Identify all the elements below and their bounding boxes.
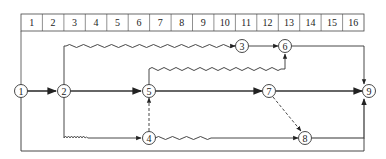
nodes: 1 2 3 4 5 6 7 8: [15, 40, 376, 145]
node-5-label: 5: [147, 86, 152, 97]
node-6[interactable]: 6: [279, 40, 292, 53]
node-1-label: 1: [19, 86, 24, 97]
node-2-label: 2: [62, 86, 67, 97]
timescale-unit-4: 4: [94, 17, 99, 28]
node-7-label: 7: [267, 86, 272, 97]
edges: [21, 45, 364, 152]
timescale-unit-5: 5: [115, 17, 120, 28]
node-5[interactable]: 5: [143, 85, 156, 98]
timescale-unit-10: 10: [220, 17, 230, 28]
node-3[interactable]: 3: [236, 40, 249, 53]
timescale-unit-9: 9: [201, 17, 206, 28]
node-7[interactable]: 7: [263, 85, 276, 98]
timescale-unit-15: 15: [327, 17, 337, 28]
edge-8-9: [312, 99, 364, 138]
edge-5-6-wavy: [149, 68, 281, 71]
node-3-label: 3: [240, 41, 245, 52]
edge-2-3-wavy: [66, 45, 241, 48]
timescale-unit-14: 14: [305, 17, 315, 28]
edge-2-3-vertical: [64, 46, 66, 85]
node-2[interactable]: 2: [58, 85, 71, 98]
timescale-unit-11: 11: [241, 17, 251, 28]
timescale-header: 1 2 3 4 5 6 7 8 9 10 11 12 13 14 15 16: [21, 14, 364, 31]
timescale-unit-2: 2: [51, 17, 56, 28]
timescale-unit-1: 1: [29, 17, 34, 28]
node-9[interactable]: 9: [363, 85, 376, 98]
timescale-unit-8: 8: [179, 17, 184, 28]
edge-4-8-wavy: [155, 137, 211, 140]
edge-7-8: [273, 97, 301, 131]
timescale-unit-6: 6: [136, 17, 141, 28]
timescale-unit-13: 13: [284, 17, 294, 28]
node-6-label: 6: [283, 41, 288, 52]
timescale-unit-7: 7: [158, 17, 163, 28]
edge-2-4-zigzag: [64, 136, 88, 138]
edge-1-9: [21, 97, 364, 151]
node-8-label: 8: [303, 133, 308, 144]
time-scaled-network-diagram: 1 2 3 4 5 6 7 8 9 10 11 12 13 14 15 16: [0, 0, 386, 159]
node-8[interactable]: 8: [299, 132, 312, 145]
node-1[interactable]: 1: [15, 85, 28, 98]
timescale-unit-3: 3: [72, 17, 77, 28]
edge-5-6-up: [281, 54, 285, 69]
node-4-label: 4: [147, 133, 152, 144]
edge-6-9: [292, 46, 364, 84]
timescale-unit-16: 16: [348, 17, 358, 28]
node-4[interactable]: 4: [143, 132, 156, 145]
timescale-unit-12: 12: [263, 17, 273, 28]
node-9-label: 9: [367, 86, 372, 97]
